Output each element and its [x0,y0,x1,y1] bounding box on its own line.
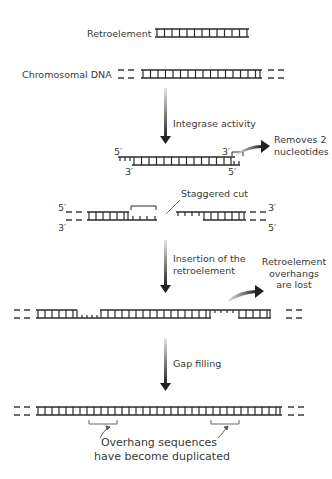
down-arrow-gap-filling [160,338,171,391]
curved-arrow-removes [236,140,270,156]
gap-filling-label: Gap filling [173,358,221,370]
staggered-cut-dna [66,200,266,220]
down-arrow-insertion [160,240,171,293]
prime-5-top-left-row3: 5′ [114,147,122,157]
final-integrated-dna [14,407,304,415]
integrase-activity-label: Integrase activity [173,118,256,130]
overhangs-lost-note: Retroelement overhangs are lost [256,256,332,291]
prime-3-left-row4: 3′ [58,223,66,233]
duplication-callout: Overhang sequences have become duplicate… [94,436,224,463]
prime-3-bottom-left-row3: 3′ [125,167,133,177]
prime-3-right-row4: 3′ [268,203,276,213]
insertion-label: Insertion of the retroelement [173,253,246,276]
retroelement-label: Retroelement [87,28,151,40]
prime-5-right-row4: 5′ [268,223,276,233]
inserted-retroelement-dna [14,310,302,318]
retroelement-ladder [155,29,249,37]
prime-5-bottom-right-row3: 5′ [228,167,236,177]
prime-3-top-right-row3: 3′ [222,147,230,157]
prime-5-left-row4: 5′ [58,203,66,213]
chromosomal-dna-label: Chromosomal DNA [22,69,112,81]
staggered-cut-callout: Staggered cut [181,188,248,200]
down-arrow-integrase [160,88,171,144]
chromosomal-dna-ladder [118,70,284,78]
removes-nucleotides-note: Removes 2 nucleotides [274,134,329,157]
